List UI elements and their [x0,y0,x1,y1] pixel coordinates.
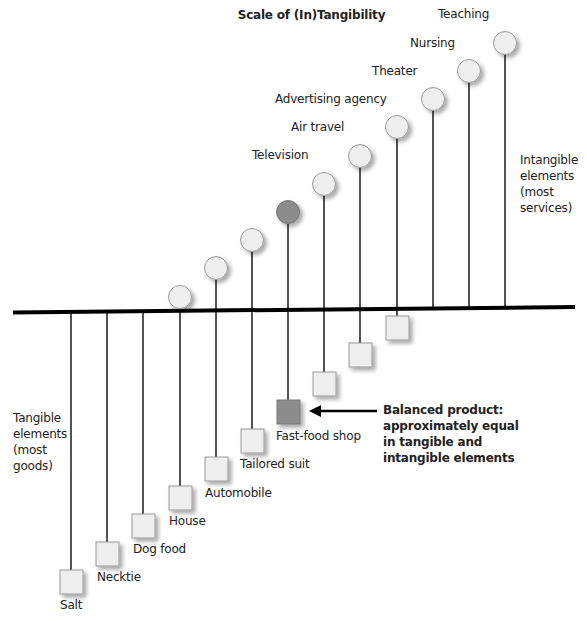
dog-food-square [132,514,155,538]
necktie-square [96,542,119,566]
label-television: Television [252,148,308,162]
label-fast-food-shop: Fast-food shop [276,429,361,443]
label-house: House [169,514,206,528]
label-dog-food: Dog food [133,542,186,556]
label-nursing: Nursing [410,36,455,50]
automobile-square [205,457,228,481]
label-theater: Theater [372,64,417,78]
tangible-markers [60,316,409,594]
label-tailored-suit: Tailored suit [240,457,310,471]
square-marker [349,343,372,367]
balanced-circle-marker [277,201,300,224]
circle-marker [169,286,192,309]
theater-circle [422,88,445,111]
tangible-elements-label: Tangible elements (most goods) [13,410,67,474]
square-marker [386,316,409,340]
house-square [169,486,192,510]
circle-marker [205,257,228,280]
television-circle [313,173,336,196]
intangible-markers [169,32,517,309]
nursing-circle [458,60,481,83]
salt-square [60,570,83,594]
square-marker [313,372,336,396]
intangible-elements-label: Intangible elements (most services) [520,152,578,216]
scale-baseline [13,307,575,313]
tailored-suit-square [241,429,264,453]
label-salt: Salt [60,598,82,612]
label-automobile: Automobile [205,486,272,500]
label-teaching: Teaching [438,7,489,21]
advertising-agency-circle [386,116,409,139]
label-necktie: Necktie [97,570,141,584]
air-travel-circle [349,145,372,168]
label-air-travel: Air travel [291,120,344,134]
teaching-circle [494,32,517,55]
balanced-product-note: Balanced product: approximately equal in… [383,402,519,466]
circle-marker [241,229,264,252]
balanced-arrow-icon [309,405,377,417]
fast-food-shop-square [277,400,300,424]
label-advertising-agency: Advertising agency [275,92,387,106]
